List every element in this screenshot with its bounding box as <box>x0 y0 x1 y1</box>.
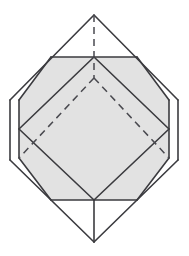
geometry-figure: Octahedron inscribed in a hexagonal pris… <box>0 0 189 256</box>
